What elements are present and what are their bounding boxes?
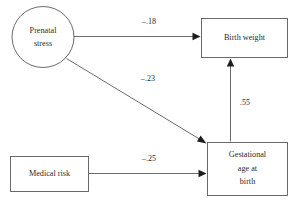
node-gestational-age-at-birth: Gestational age at birth <box>208 143 288 196</box>
node-label-gestational-age-line3: birth <box>240 177 255 186</box>
arrowhead-gestational-to-birth-weight <box>227 59 234 67</box>
arrowhead-prenatal-to-gestational <box>197 135 207 143</box>
edge-medical-risk-to-gestational-age: –.25 <box>89 154 207 177</box>
node-medical-risk: Medical risk <box>11 157 89 192</box>
node-label-prenatal-stress-line2: stress <box>34 39 52 48</box>
arrowhead-prenatal-to-birth-weight <box>193 33 201 40</box>
node-label-medical-risk: Medical risk <box>29 169 71 178</box>
node-label-gestational-age-line1: Gestational <box>229 150 267 159</box>
edge-label-gestational-to-birth-weight: .55 <box>240 98 250 107</box>
arrowhead-medical-risk-to-gestational <box>199 170 207 177</box>
node-label-gestational-age-line2: age at <box>238 164 258 173</box>
path-diagram-svg: –.18 –.23 .55 –.25 Prenatal stress <box>0 0 293 203</box>
edge-label-medical-risk-to-gestational: –.25 <box>141 154 156 163</box>
path-diagram-canvas: –.18 –.23 .55 –.25 Prenatal stress <box>0 0 293 203</box>
node-birth-weight: Birth weight <box>202 19 288 58</box>
edge-prenatal-stress-to-gestational-age: –.23 <box>67 59 207 144</box>
edge-label-prenatal-to-birth-weight: –.18 <box>141 17 156 26</box>
node-prenatal-stress: Prenatal stress <box>12 7 74 68</box>
node-label-prenatal-stress-line1: Prenatal <box>30 26 58 35</box>
node-shape-prenatal-stress <box>12 7 74 68</box>
edge-line-prenatal-to-gestational <box>67 59 204 142</box>
edge-gestational-age-to-birth-weight: .55 <box>227 59 250 142</box>
node-label-birth-weight: Birth weight <box>224 33 266 42</box>
edge-prenatal-stress-to-birth-weight: –.18 <box>74 17 201 40</box>
edge-label-prenatal-to-gestational: –.23 <box>140 74 155 83</box>
